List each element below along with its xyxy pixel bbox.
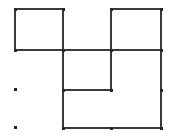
vertex-top-right-rect-left [110,8,113,11]
vertex-bottom-mid [110,127,113,130]
line-drawing-figure [0,0,173,136]
vertex-top-left [14,8,17,11]
isolated-dots-group [14,88,17,129]
vertex-inner-bottom-right [110,89,113,92]
vertex-top-right [160,8,163,11]
vertex-mid-tee [110,49,113,52]
vertex-right-mid [160,49,163,52]
vertex-bottom-left [62,127,65,130]
figure-canvas [0,0,173,136]
vertex-left-mid [14,49,17,52]
vertex-bottom-right [160,127,163,130]
vertex-right-lower [160,89,163,92]
vertex-top-mid [62,8,65,11]
vertex-markers-group [14,8,163,130]
isolated-dot-upper [14,88,17,91]
vertex-inner-bottom-left [62,89,65,92]
vertex-center-cross [62,49,65,52]
isolated-dot-lower [14,126,17,129]
segments-group [15,9,161,128]
